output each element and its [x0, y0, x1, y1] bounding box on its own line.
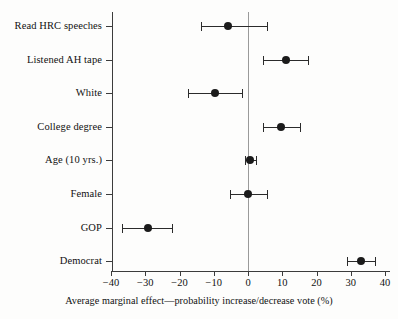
- confidence-interval-cap-low-democrat: [347, 257, 348, 266]
- x-axis-tick: [282, 271, 283, 276]
- x-axis-tick: [385, 271, 386, 276]
- y-axis-label-age-10-yrs: Age (10 yrs.): [45, 154, 102, 165]
- y-axis-label-democrat: Democrat: [60, 255, 102, 266]
- y-axis-tick: [106, 127, 112, 128]
- y-axis-label-white: White: [76, 87, 102, 98]
- y-axis-tick: [106, 60, 112, 61]
- x-axis-tick-label: 40: [365, 277, 398, 289]
- confidence-interval-cap-high-white: [242, 89, 243, 98]
- estimate-point-gop: [144, 224, 152, 232]
- x-axis-line: [112, 271, 390, 272]
- confidence-interval-cap-low-read-hrc-speeches: [201, 22, 202, 31]
- confidence-interval-cap-low-college-degree: [263, 123, 264, 132]
- confidence-interval-cap-high-college-degree: [300, 123, 301, 132]
- y-axis-label-read-hrc-speeches: Read HRC speeches: [15, 20, 102, 31]
- x-axis-tick: [145, 271, 146, 276]
- x-axis-tick: [248, 271, 249, 276]
- y-axis-tick: [106, 160, 112, 161]
- y-axis-tick: [106, 261, 112, 262]
- confidence-interval-cap-high-female: [267, 190, 268, 199]
- estimate-point-democrat: [357, 257, 365, 265]
- confidence-interval-cap-low-white: [188, 89, 189, 98]
- x-axis-tick: [180, 271, 181, 276]
- confidence-interval-cap-high-listened-ah-tape: [308, 56, 309, 65]
- estimate-point-white: [211, 89, 219, 97]
- confidence-interval-cap-high-democrat: [375, 257, 376, 266]
- confidence-interval-cap-high-read-hrc-speeches: [267, 22, 268, 31]
- y-axis-tick: [106, 194, 112, 195]
- y-axis-label-college-degree: College degree: [37, 121, 102, 132]
- y-axis-line: [112, 12, 113, 271]
- confidence-interval-cap-low-listened-ah-tape: [263, 56, 264, 65]
- confidence-interval-cap-low-gop: [122, 224, 123, 233]
- y-axis-tick: [106, 228, 112, 229]
- y-axis-tick: [106, 26, 112, 27]
- confidence-interval-bar-read-hrc-speeches: [201, 26, 267, 27]
- zero-reference-line: [248, 12, 249, 271]
- estimate-point-listened-ah-tape: [282, 56, 290, 64]
- estimate-point-age-10-yrs: [246, 156, 254, 164]
- estimate-point-college-degree: [277, 123, 285, 131]
- y-axis-label-female: Female: [70, 188, 102, 199]
- x-axis-tick: [351, 271, 352, 276]
- confidence-interval-cap-high-gop: [172, 224, 173, 233]
- estimate-point-read-hrc-speeches: [224, 22, 232, 30]
- y-axis-label-listened-ah-tape: Listened AH tape: [27, 54, 102, 65]
- estimate-point-female: [244, 190, 252, 198]
- y-axis-tick: [106, 93, 112, 94]
- x-axis-tick: [317, 271, 318, 276]
- x-axis-title: Average marginal effect—probability incr…: [0, 295, 398, 307]
- confidence-interval-cap-low-female: [230, 190, 231, 199]
- x-axis-tick: [214, 271, 215, 276]
- coefficient-plot-figure: Read HRC speechesListened AH tapeWhiteCo…: [0, 0, 398, 319]
- y-axis-label-gop: GOP: [81, 222, 102, 233]
- confidence-interval-cap-high-age-10-yrs: [256, 156, 257, 165]
- x-axis-tick: [111, 271, 112, 276]
